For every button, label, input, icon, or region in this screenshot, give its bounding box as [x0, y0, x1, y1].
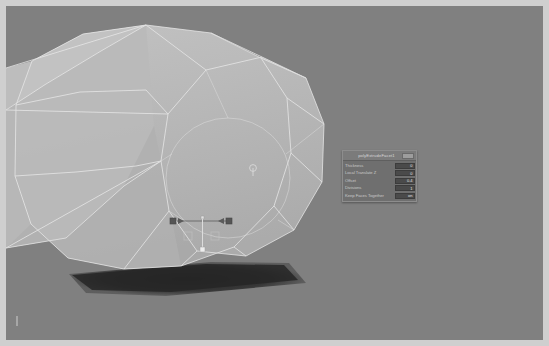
perspective-viewport[interactable]: polyExtrudeFacet1 Thickness 0 Local Tran… [6, 6, 543, 340]
attribute-input[interactable]: 1 [395, 185, 415, 191]
panel-title: polyExtrudeFacet1 [358, 153, 395, 158]
attribute-value: 0 [410, 163, 412, 168]
attribute-value: 0 [410, 171, 412, 176]
attribute-row-divisions[interactable]: Divisions 1 [344, 185, 415, 192]
attribute-label: Local Translate Z [344, 170, 395, 176]
application-window: polyExtrudeFacet1 Thickness 0 Local Tran… [0, 0, 549, 346]
poly-extrude-facet-panel[interactable]: polyExtrudeFacet1 Thickness 0 Local Tran… [342, 150, 417, 202]
attribute-value: 1 [410, 186, 412, 191]
attribute-row-keep-faces-together[interactable]: Keep Faces Together on [344, 192, 415, 199]
panel-titlebar[interactable]: polyExtrudeFacet1 [343, 151, 416, 161]
attribute-row-thickness[interactable]: Thickness 0 [344, 162, 415, 169]
manipulator-base-handle [200, 247, 205, 252]
attribute-label: Divisions [344, 185, 395, 191]
attribute-label: Keep Faces Together [344, 193, 395, 199]
panel-attribute-list: Thickness 0 Local Translate Z 0 Offset 0… [343, 161, 416, 201]
attribute-input[interactable]: 0.4 [395, 178, 415, 184]
manipulator-handle-right [226, 218, 232, 224]
manipulator-handle-left [170, 218, 176, 224]
manipulator-center-handle [201, 216, 204, 219]
attribute-input[interactable]: on [395, 193, 415, 199]
attribute-row-local-translate-z[interactable]: Local Translate Z 0 [344, 170, 415, 177]
attribute-value: 0.4 [407, 178, 413, 183]
attribute-label: Thickness [344, 163, 395, 169]
attribute-input[interactable]: 0 [395, 163, 415, 169]
panel-menu-button[interactable] [402, 153, 414, 159]
attribute-row-offset[interactable]: Offset 0.4 [344, 177, 415, 184]
attribute-value: on [408, 193, 412, 198]
attribute-input[interactable]: 0 [395, 170, 415, 176]
viewport-scene [6, 6, 543, 340]
viewport-corner-marker [16, 316, 18, 326]
attribute-label: Offset [344, 178, 395, 184]
